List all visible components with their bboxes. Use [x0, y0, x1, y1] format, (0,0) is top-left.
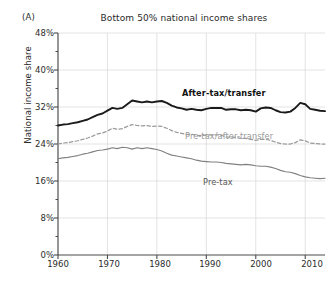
axis-lines — [54, 33, 325, 259]
series-label-pre-tax: Pre-tax — [203, 177, 233, 187]
series-label-after-tax: After-tax/transfer — [182, 88, 266, 98]
plot-area — [0, 0, 332, 291]
series-label-pre-tax-after-transfer: Pre-tax/after-transfer — [185, 131, 273, 141]
chart-figure: (A) Bottom 50% national income shares Na… — [0, 0, 332, 291]
